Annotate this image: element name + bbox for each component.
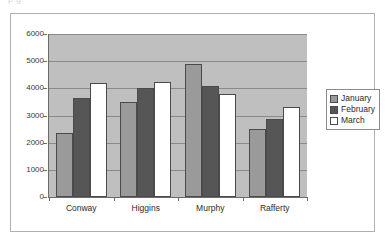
x-axis-category-labels: ConwayHigginsMurphyRafferty [49, 203, 307, 213]
y-axis-tick-label: 5000 [26, 57, 44, 65]
bar[interactable] [266, 119, 283, 197]
x-axis-category-label: Higgins [114, 203, 179, 213]
y-axis-tick-label: 1000 [26, 166, 44, 174]
x-axis-category-label: Conway [49, 203, 114, 213]
y-axis-tick-label: 2000 [26, 139, 44, 147]
bar[interactable] [56, 133, 73, 197]
x-axis-category-label: Rafferty [243, 203, 308, 213]
top-partial-text-strip: p g [0, 0, 387, 11]
bar[interactable] [185, 64, 202, 197]
y-axis-tick-label: 6000 [26, 30, 44, 38]
y-axis-tick [43, 34, 47, 35]
y-axis-tick [43, 197, 47, 198]
bar[interactable] [90, 83, 107, 197]
legend-item[interactable]: February [330, 104, 375, 115]
x-axis-tick [114, 197, 115, 201]
bar[interactable] [120, 102, 137, 197]
x-axis-tick [307, 197, 308, 201]
x-axis-category-label: Murphy [178, 203, 243, 213]
bar-groups [49, 34, 307, 197]
legend-swatch-icon [330, 95, 338, 103]
bar[interactable] [249, 129, 266, 197]
y-axis-tick [43, 143, 47, 144]
x-axis-tick [243, 197, 244, 201]
y-axis-tick [43, 170, 47, 171]
bar[interactable] [73, 98, 90, 197]
bar[interactable] [283, 107, 300, 197]
legend-swatch-icon [330, 106, 338, 114]
bar-group [243, 34, 308, 197]
chart-legend: JanuaryFebruaryMarch [326, 89, 380, 130]
y-axis-tick [43, 61, 47, 62]
x-axis-ticks [49, 197, 307, 201]
y-axis-labels: 6000500040003000200010000 [11, 34, 44, 197]
legend-item[interactable]: January [330, 93, 375, 104]
bar[interactable] [202, 86, 219, 197]
bar-group [49, 34, 114, 197]
bar[interactable] [154, 82, 171, 197]
chart-frame: 6000500040003000200010000 ConwayHigginsM… [10, 13, 375, 232]
y-axis-tick [43, 116, 47, 117]
legend-item-label: March [341, 115, 365, 126]
x-axis-tick [178, 197, 179, 201]
bar-group [114, 34, 179, 197]
y-axis-tick [43, 88, 47, 89]
top-partial-text: p g [8, 0, 21, 4]
x-axis-tick [49, 197, 50, 201]
legend-item-label: January [341, 93, 371, 104]
y-axis-tick-label: 4000 [26, 84, 44, 92]
legend-item-label: February [341, 104, 375, 115]
bar[interactable] [219, 94, 236, 197]
y-axis-tick-label: 3000 [26, 112, 44, 120]
bar-group [178, 34, 243, 197]
bar[interactable] [137, 88, 154, 197]
legend-item[interactable]: March [330, 115, 375, 126]
legend-swatch-icon [330, 117, 338, 125]
